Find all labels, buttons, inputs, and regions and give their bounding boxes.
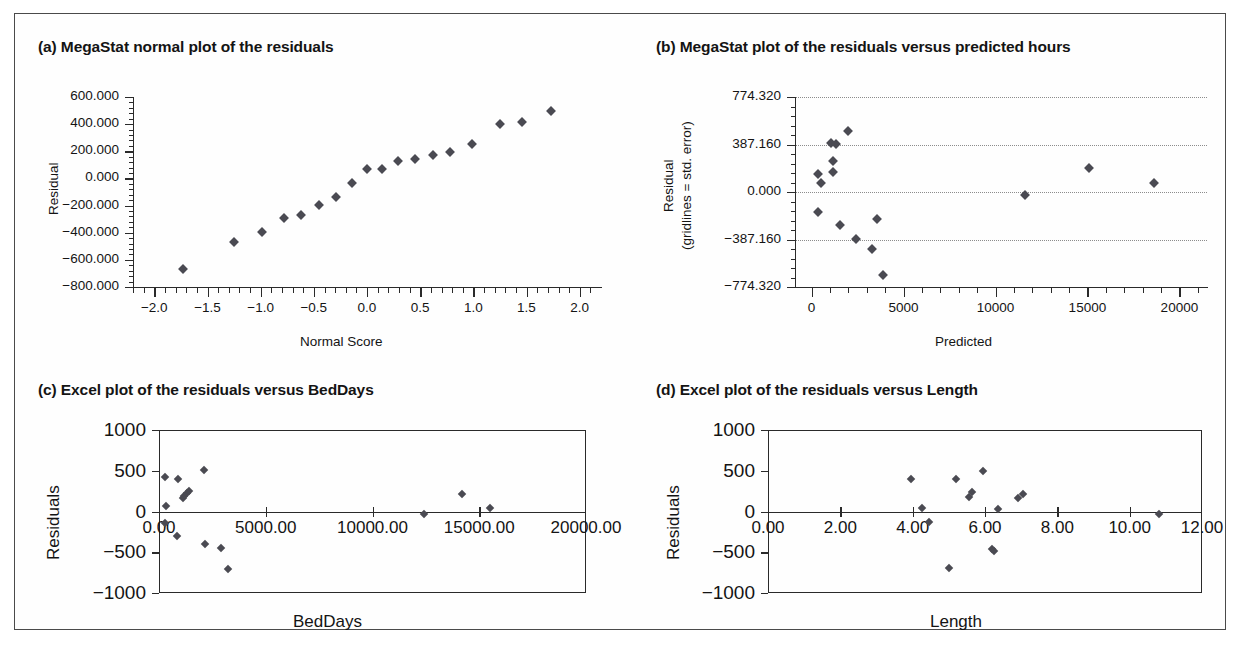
x-minor-tick	[463, 288, 464, 293]
x-minor-tick	[516, 288, 517, 293]
x-tick-label: 15000	[1069, 300, 1107, 315]
y-tick-label: −400.000	[62, 224, 119, 239]
y-minor-tick	[129, 184, 133, 185]
x-tick-label: 1.5	[517, 300, 536, 315]
x-minor-tick	[133, 288, 134, 293]
y-major-tick	[125, 178, 133, 179]
x-major-tick	[527, 288, 528, 297]
x-minor-tick	[144, 288, 145, 293]
x-tick-label: 10.00	[1108, 518, 1151, 538]
y-major-tick	[152, 471, 159, 472]
y-minor-tick	[791, 173, 795, 174]
x-tick-label: 12.00	[1181, 518, 1224, 538]
y-tick-label: 1000	[713, 419, 755, 441]
x-minor-tick	[431, 288, 432, 293]
y-minor-tick	[129, 200, 133, 201]
y-minor-tick	[791, 268, 795, 269]
x-tick-label: 10000	[977, 300, 1015, 315]
y-major-tick	[152, 512, 159, 513]
y-tick-label: −800.000	[62, 278, 119, 293]
data-point	[331, 192, 341, 202]
y-tick-label: 1000	[104, 419, 146, 441]
y-major-tick	[761, 471, 768, 472]
x-minor-tick	[197, 288, 198, 293]
x-tick-label: 1.0	[464, 300, 483, 315]
x-tick-label: 2.00	[824, 518, 857, 538]
y-tick-label: −200.000	[62, 197, 119, 212]
panel-c-plot-area: 10005000−500−10000.005000.0010000.001500…	[159, 430, 586, 593]
x-tick-label: 5000.00	[235, 518, 296, 538]
x-major-tick	[479, 507, 480, 517]
panel-b-y-axis-title-line1: Residual	[661, 159, 676, 212]
y-tick-label: 0.000	[747, 183, 781, 198]
gridline	[795, 97, 1207, 98]
y-major-tick	[125, 287, 133, 288]
y-minor-tick	[129, 168, 133, 169]
y-minor-tick	[129, 195, 133, 196]
x-minor-tick	[922, 288, 923, 293]
y-minor-tick	[129, 130, 133, 131]
data-point	[445, 147, 455, 157]
data-point	[347, 178, 357, 188]
x-minor-tick	[885, 288, 886, 293]
x-tick-label: −1.5	[194, 300, 221, 315]
x-tick-label: 15000.00	[444, 518, 515, 538]
x-minor-tick	[282, 288, 283, 293]
y-tick-label: 500	[114, 460, 146, 482]
x-minor-tick	[239, 288, 240, 293]
y-minor-tick	[791, 135, 795, 136]
x-tick-label: 0.00	[142, 518, 175, 538]
data-point	[314, 200, 324, 210]
y-tick-label: 0.000	[85, 169, 119, 184]
x-tick-label: 8.00	[1041, 518, 1074, 538]
y-tick-label: −600.000	[62, 251, 119, 266]
data-point	[546, 106, 556, 116]
data-point	[229, 237, 239, 247]
y-major-tick	[787, 287, 795, 288]
y-minor-tick	[129, 162, 133, 163]
data-point	[467, 139, 477, 149]
y-major-tick	[787, 240, 795, 241]
panel-b-y-axis-title-line2: (gridlines = std. error)	[679, 121, 694, 250]
x-major-tick	[261, 288, 262, 297]
y-tick-label: −387.160	[724, 231, 781, 246]
x-tick-label: 10000.00	[337, 518, 408, 538]
y-minor-tick	[129, 146, 133, 147]
x-minor-tick	[1014, 288, 1015, 293]
panel-b-y-axis-title: Residual (gridlines = std. error)	[660, 121, 696, 250]
data-point	[428, 150, 438, 160]
x-tick-label: 5000	[888, 300, 918, 315]
y-minor-tick	[129, 276, 133, 277]
y-minor-tick	[129, 265, 133, 266]
y-major-tick	[761, 512, 768, 513]
x-major-tick	[473, 288, 474, 297]
x-major-tick	[154, 288, 155, 297]
gridline	[795, 145, 1207, 146]
x-minor-tick	[176, 288, 177, 293]
y-minor-tick	[791, 211, 795, 212]
panel-d-plot-area: 10005000−500−10000.002.004.006.008.0010.…	[768, 430, 1202, 593]
x-minor-tick	[271, 288, 272, 293]
y-minor-tick	[129, 113, 133, 114]
y-minor-tick	[129, 282, 133, 283]
x-minor-tick	[303, 288, 304, 293]
x-major-tick	[1179, 288, 1180, 297]
x-minor-tick	[410, 288, 411, 293]
y-axis-line	[795, 97, 796, 288]
y-tick-label: −500	[712, 541, 755, 563]
x-minor-tick	[378, 288, 379, 293]
y-minor-tick	[129, 238, 133, 239]
x-tick-label: 20000.00	[551, 518, 622, 538]
y-minor-tick	[791, 221, 795, 222]
y-tick-label: 387.160	[732, 136, 781, 151]
y-minor-tick	[129, 249, 133, 250]
data-point	[377, 164, 387, 174]
data-point	[828, 167, 838, 177]
x-minor-tick	[356, 288, 357, 293]
y-minor-tick	[129, 216, 133, 217]
y-minor-tick	[129, 157, 133, 158]
x-minor-tick	[388, 288, 389, 293]
x-major-tick	[1130, 507, 1131, 517]
x-major-tick	[812, 288, 813, 297]
y-minor-tick	[129, 140, 133, 141]
